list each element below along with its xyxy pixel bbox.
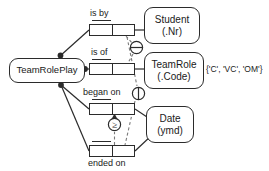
entity-teamrole-reference: (.Code): [157, 71, 190, 82]
predicate-label-began-on: began on: [83, 87, 121, 97]
orm-diagram-canvas: TeamRolePlay Student (.Nr) TeamRole (.Co…: [0, 0, 269, 171]
role-cell-began-on-2[interactable]: [112, 104, 135, 114]
predicate-label-ended-on: ended on: [88, 158, 126, 168]
value-constraint-teamrole: {'C', 'VC', 'OM'}: [206, 64, 263, 74]
entity-student-name: Student: [155, 14, 189, 25]
uniqueness-bar-is-by: [92, 20, 111, 21]
entity-teamrole-name: TeamRole: [151, 59, 196, 70]
role-cell-is-by-1[interactable]: [90, 25, 112, 35]
subset-constraint-glyph: ≥: [112, 120, 117, 130]
predicate-label-is-of: is of: [91, 47, 108, 57]
exclusion-constraint-icon[interactable]: [129, 40, 144, 55]
entity-teamrole[interactable]: TeamRole (.Code): [144, 52, 204, 89]
entity-teamroleplay-name: TeamRolePlay: [16, 65, 77, 76]
entity-date-name: Date: [159, 113, 180, 124]
entity-student-reference: (.Nr): [162, 26, 182, 37]
role-cell-began-on-1[interactable]: [90, 104, 112, 114]
role-cell-ended-on-1[interactable]: [90, 146, 112, 156]
role-cell-is-of-2[interactable]: [112, 64, 135, 74]
exclusion-constraint-icon[interactable]: [131, 86, 146, 101]
predicate-box-began-on[interactable]: [89, 103, 135, 115]
entity-date[interactable]: Date (ymd): [146, 106, 194, 143]
subset-constraint-icon[interactable]: ≥: [107, 117, 122, 132]
connector-teamroleplay-isby: [60, 30, 89, 56]
entity-date-reference: (ymd): [157, 125, 183, 136]
role-cell-is-of-1[interactable]: [90, 64, 112, 74]
role-cell-is-by-2[interactable]: [112, 25, 135, 35]
uniqueness-bar-ended-on: [92, 141, 111, 142]
role-cell-ended-on-2[interactable]: [112, 146, 135, 156]
predicate-box-ended-on[interactable]: [89, 145, 135, 157]
uniqueness-bar-is-of: [92, 59, 111, 60]
entity-teamroleplay[interactable]: TeamRolePlay: [9, 58, 85, 83]
predicate-box-is-by[interactable]: [89, 24, 135, 36]
entity-student[interactable]: Student (.Nr): [144, 7, 200, 44]
predicate-label-is-by: is by: [90, 8, 109, 18]
uniqueness-bar-began-on: [92, 99, 111, 100]
predicate-box-is-of[interactable]: [89, 63, 135, 75]
